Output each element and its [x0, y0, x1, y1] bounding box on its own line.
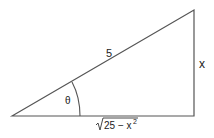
- angle-arc: [72, 82, 80, 116]
- adjacent-side-label: 25 − x 2: [96, 118, 138, 131]
- hypotenuse-label: 5: [106, 47, 112, 59]
- exponent: 2: [133, 118, 137, 125]
- triangle-diagram: 5 x θ 25 − x 2: [0, 0, 214, 138]
- opposite-side-label: x: [199, 57, 205, 71]
- right-triangle: [12, 10, 194, 116]
- radicand: 25 − x: [104, 120, 132, 131]
- angle-theta-label: θ: [65, 95, 71, 106]
